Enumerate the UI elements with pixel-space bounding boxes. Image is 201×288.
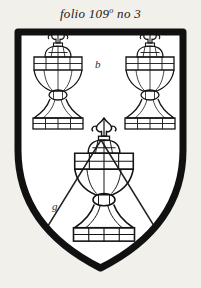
- heraldic-plate: folio 109o no 3: [0, 0, 201, 288]
- coat-of-arms: [0, 0, 201, 288]
- tincture-annotation-chief: b: [95, 58, 101, 70]
- caption-prefix: folio 109: [60, 6, 109, 21]
- folio-caption: folio 109o no 3: [0, 6, 201, 22]
- caption-suffix: no 3: [117, 6, 141, 21]
- caption-superscript: o: [109, 6, 113, 15]
- tincture-annotation-base: g: [52, 200, 58, 212]
